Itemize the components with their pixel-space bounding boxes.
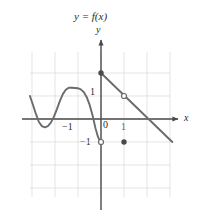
marker-open-endpoint-curve <box>99 140 104 145</box>
curve-descending-line <box>101 73 172 142</box>
figure-container: y = f(x) y x 1 0 1 −1 −1 <box>0 0 200 217</box>
marker-filled-point-y-intercept <box>98 70 103 75</box>
marker-open-hole-on-line <box>122 94 127 99</box>
point-markers <box>98 70 126 144</box>
marker-filled-point-lower-right <box>121 139 126 144</box>
graph-canvas <box>0 0 200 217</box>
